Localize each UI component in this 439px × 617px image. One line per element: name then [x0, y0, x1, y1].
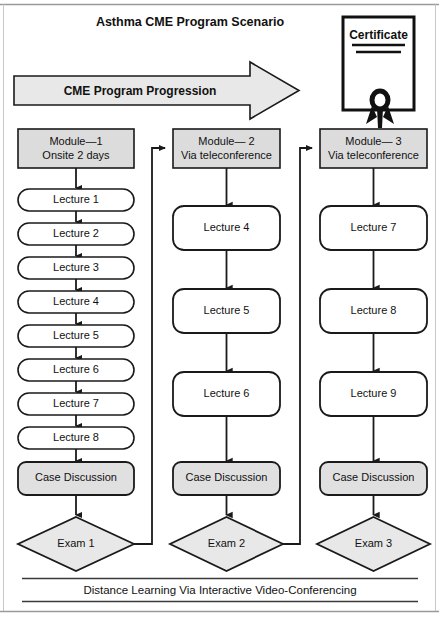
module-2-line1: Module— 2: [198, 135, 254, 147]
case-discussion-node[interactable]: Case Discussion: [173, 462, 280, 495]
diagram-canvas: Asthma CME Program Scenario Certificate …: [0, 0, 439, 617]
column-module-1: Module—1 Onsite 2 days Lecture 1 Lecture…: [18, 129, 134, 571]
lecture-node[interactable]: Lecture 9: [320, 372, 427, 416]
certificate-graphic: Certificate: [343, 17, 414, 128]
exam-node[interactable]: Exam 3: [317, 517, 430, 571]
module-2-line2: Via teleconference: [181, 149, 272, 161]
lecture-label: Lecture 8: [53, 431, 99, 443]
lecture-node[interactable]: Lecture 5: [173, 289, 280, 333]
exam-node[interactable]: Exam 1: [18, 517, 134, 571]
lecture-label: Lecture 5: [204, 304, 250, 316]
lecture-label: Lecture 8: [351, 304, 397, 316]
feedback-link-exam2-module3: [283, 148, 312, 544]
case-discussion-label: Case Discussion: [186, 471, 268, 483]
lecture-node[interactable]: Lecture 6: [173, 372, 280, 416]
footer-band: Distance Learning Via Interactive Video-…: [22, 579, 418, 602]
exam-label: Exam 1: [57, 537, 94, 549]
lecture-label: Lecture 6: [53, 363, 99, 375]
lecture-label: Lecture 7: [53, 397, 99, 409]
feedback-link-exam1-module2: [134, 148, 165, 544]
lecture-label: Lecture 9: [351, 387, 397, 399]
case-discussion-label: Case Discussion: [333, 471, 415, 483]
module-header-3[interactable]: Module— 3 Via teleconference: [320, 129, 427, 168]
module-1-line2: Onsite 2 days: [42, 149, 110, 161]
lecture-node[interactable]: Lecture 3: [18, 257, 134, 279]
exam-node[interactable]: Exam 2: [170, 517, 283, 571]
lecture-label: Lecture 3: [53, 261, 99, 273]
module-header-2[interactable]: Module— 2 Via teleconference: [173, 129, 280, 168]
column-module-3: Module— 3 Via teleconference Lecture 7 L…: [317, 129, 430, 571]
asthma-cme-program-flowchart: Asthma CME Program Scenario Certificate …: [0, 0, 439, 617]
lecture-node[interactable]: Lecture 8: [320, 289, 427, 333]
lecture-node[interactable]: Lecture 4: [173, 206, 280, 250]
lecture-node[interactable]: Lecture 2: [18, 223, 134, 245]
lecture-label: Lecture 6: [204, 387, 250, 399]
lecture-node[interactable]: Lecture 4: [18, 291, 134, 313]
column-module-2: Module— 2 Via teleconference Lecture 4 L…: [170, 129, 283, 571]
lecture-label: Lecture 7: [351, 221, 397, 233]
page-title: Asthma CME Program Scenario: [96, 15, 285, 29]
certificate-seal-icon: [372, 91, 388, 109]
exam-label: Exam 2: [208, 537, 245, 549]
lecture-node[interactable]: Lecture 7: [18, 393, 134, 415]
lecture-node[interactable]: Lecture 5: [18, 325, 134, 347]
certificate-label: Certificate: [349, 28, 408, 42]
module-3-line1: Module— 3: [345, 135, 401, 147]
banner-label: CME Program Progression: [64, 84, 217, 98]
case-discussion-label: Case Discussion: [35, 471, 117, 483]
footer-label: Distance Learning Via Interactive Video-…: [83, 584, 356, 596]
lecture-node[interactable]: Lecture 8: [18, 427, 134, 449]
lecture-node[interactable]: Lecture 7: [320, 206, 427, 250]
lecture-label: Lecture 5: [53, 329, 99, 341]
cme-progression-banner: CME Program Progression: [14, 62, 299, 119]
lecture-label: Lecture 2: [53, 227, 99, 239]
module-header-1[interactable]: Module—1 Onsite 2 days: [18, 129, 134, 168]
case-discussion-node[interactable]: Case Discussion: [18, 462, 134, 495]
module-1-line1: Module—1: [49, 135, 102, 147]
case-discussion-node[interactable]: Case Discussion: [320, 462, 427, 495]
lecture-label: Lecture 1: [53, 193, 99, 205]
module-3-line2: Via teleconference: [328, 149, 419, 161]
exam-label: Exam 3: [355, 537, 392, 549]
lecture-label: Lecture 4: [204, 221, 250, 233]
lecture-node[interactable]: Lecture 1: [18, 189, 134, 211]
lecture-node[interactable]: Lecture 6: [18, 359, 134, 381]
lecture-label: Lecture 4: [53, 295, 99, 307]
